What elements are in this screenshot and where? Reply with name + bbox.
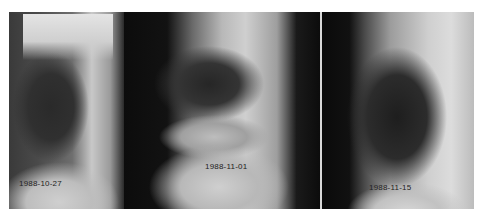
xray-panel-3: 1988-11-15 — [322, 12, 474, 209]
xray-panel-1: 1988-10-27 — [9, 12, 124, 209]
xray-panel-2: 1988-11-01 — [124, 12, 320, 209]
date-label-1: 1988-10-27 — [19, 179, 62, 188]
radiograph-series: 1988-10-27 1988-11-01 1988-11-15 — [9, 12, 474, 209]
date-label-3: 1988-11-15 — [369, 183, 411, 192]
shoulder-shadow — [23, 14, 113, 60]
date-label-2: 1988-11-01 — [205, 162, 247, 171]
